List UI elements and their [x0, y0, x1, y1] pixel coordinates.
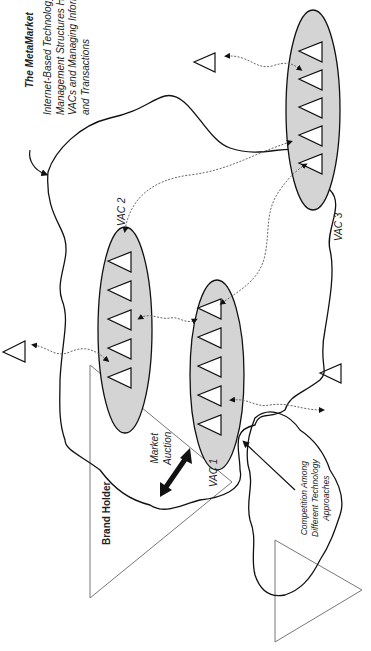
market-auction-line-1: Market: [148, 432, 161, 465]
competition-label: Competition Among Different Technology A…: [299, 459, 332, 537]
external-node-left: [3, 341, 25, 362]
external-node-top: [194, 53, 215, 72]
metamarket-description: Internet-Based Technology and Management…: [42, 0, 92, 115]
competition-line-1: Competition Among: [299, 459, 310, 537]
description-line-1: Internet-Based Technology and: [42, 0, 55, 115]
vac2-ellipse: [98, 227, 152, 433]
metamarket-diagram: The MetaMarket Internet-Based Technology…: [0, 0, 371, 651]
brand-holder-label: Brand Holder: [101, 482, 112, 545]
technology-triangle: [275, 540, 362, 642]
vac2-label: VAC 2: [116, 198, 127, 226]
description-line-3: VACs and Managing Information: [67, 0, 80, 115]
description-line-4: and Transactions: [80, 0, 93, 115]
market-auction-label: Market Auction: [148, 432, 174, 465]
vac1-label: VAC 1: [208, 459, 219, 487]
vac3-ellipse: [286, 10, 340, 210]
competition-line-3: Approaches: [321, 459, 332, 537]
vac1-ellipse: [190, 280, 244, 470]
competition-line-2: Different Technology: [310, 459, 321, 537]
metamarket-title: The MetaMarket: [24, 12, 35, 88]
external-node-right: [320, 364, 341, 383]
metamarket-pointer-arrow: [30, 150, 45, 174]
competition-arrow: [245, 443, 295, 490]
market-auction-line-2: Auction: [161, 432, 174, 465]
vac3-label: VAC 3: [333, 213, 344, 241]
description-line-2: Management Structures Holding: [55, 0, 68, 115]
